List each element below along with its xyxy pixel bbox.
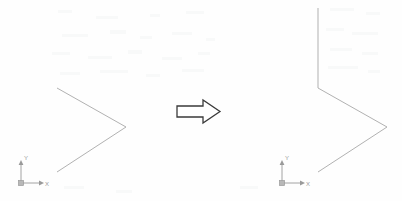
chevron-polyline-after[interactable] [318,8,387,172]
drawing-canvas: Y X Y X [0,0,402,201]
ucs-x-label-after: X [306,181,310,187]
ucs-y-arrowhead-after [280,160,285,165]
figure-after: Y X [0,0,402,201]
ucs-origin-box-after [280,181,285,186]
ucs-y-label-after: Y [285,155,289,161]
ucs-x-arrowhead-after [300,181,305,186]
ucs-icon-after: Y X [280,155,311,187]
